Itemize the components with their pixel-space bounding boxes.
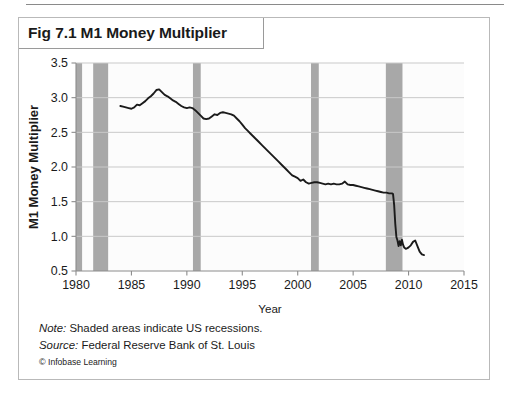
y-tick-label: 3.5 [51,56,68,70]
note-label: Note: [39,322,66,334]
y-tick-label: 3.0 [51,91,68,105]
top-divider-rule [26,4,504,5]
source-label: Source: [39,339,78,351]
x-tick-label: 2015 [450,278,478,292]
x-axis-title: Year [258,302,282,315]
source-text: Federal Reserve Bank of St. Louis [78,339,255,351]
page-title: Fig 7.1 M1 Money Multiplier [28,24,227,42]
copyright-icon: © [39,357,46,367]
x-tick-label: 1980 [62,278,90,292]
x-tick-label: 2005 [339,278,367,292]
source-line: Source: Federal Reserve Bank of St. Loui… [39,337,469,354]
x-tick-labels-group: 19801985199019952000200520102015 [62,278,478,292]
y-tick-labels-group: 0.51.01.52.02.53.03.5 [51,56,68,278]
footnotes-block: Note: Shaded areas indicate US recession… [39,320,469,370]
x-tick-label: 2010 [395,278,423,292]
y-tick-label: 1.0 [51,230,68,244]
x-tick-label: 1995 [228,278,256,292]
chart-plot-area: 19801985199019952000200520102015 0.51.01… [19,49,489,315]
note-text: Shaded areas indicate US recessions. [66,322,262,334]
x-tick-label: 1985 [118,278,146,292]
y-tick-label: 1.5 [51,195,68,209]
x-tick-label: 1990 [173,278,201,292]
y-axis-title: M1 Money Multiplier [26,105,41,229]
note-line: Note: Shaded areas indicate US recession… [39,320,469,337]
y-tick-label: 0.5 [51,264,68,278]
copyright-line: © Infobase Learning [39,355,469,370]
x-tick-label: 2000 [284,278,312,292]
copyright-text: Infobase Learning [46,357,117,367]
figure-panel: Fig 7.1 M1 Money Multiplier 198019851990… [18,17,490,380]
y-tick-label: 2.0 [51,160,68,174]
figure-title-box: Fig 7.1 M1 Money Multiplier [19,18,264,49]
y-tick-label: 2.5 [51,126,68,140]
line-chart-svg: 19801985199019952000200520102015 0.51.01… [19,49,489,315]
